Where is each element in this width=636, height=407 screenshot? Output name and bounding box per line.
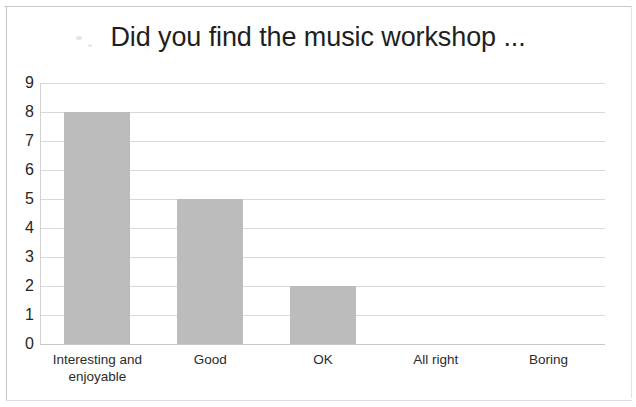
bar xyxy=(290,286,356,344)
y-axis-tick-label: 3 xyxy=(6,249,34,265)
y-axis-tick-label: 7 xyxy=(6,133,34,149)
y-axis-tick-label: 9 xyxy=(6,75,34,91)
x-axis-tick-label: Interesting and enjoyable xyxy=(37,351,157,385)
x-axis-tick-label: Boring xyxy=(489,351,609,368)
x-axis-category-labels: Interesting and enjoyableGoodOKAll right… xyxy=(41,351,605,399)
y-axis-tick-label: 4 xyxy=(6,220,34,236)
y-axis-tick-label: 0 xyxy=(6,336,34,352)
page-frame-top-border xyxy=(4,6,632,7)
y-axis-tick-label: 8 xyxy=(6,104,34,120)
bar xyxy=(64,112,130,344)
y-axis-tick-label: 6 xyxy=(6,162,34,178)
bar-chart-figure: Did you find the music workshop ... 9876… xyxy=(0,0,636,407)
y-axis-tick-label: 2 xyxy=(6,278,34,294)
gridline xyxy=(41,83,605,84)
axis-baseline xyxy=(41,344,605,345)
page-frame-right-border xyxy=(631,6,632,398)
y-axis-tick-label: 5 xyxy=(6,191,34,207)
x-axis-tick-label: OK xyxy=(263,351,383,368)
y-axis-tick-labels: 9876543210 xyxy=(0,0,34,407)
chart-title: Did you find the music workshop ... xyxy=(0,22,636,53)
plot-area xyxy=(41,83,605,344)
y-axis-tick-label: 1 xyxy=(6,307,34,323)
x-axis-tick-label: Good xyxy=(150,351,270,368)
x-axis-tick-label: All right xyxy=(376,351,496,368)
page-frame-bottom-border xyxy=(6,400,632,401)
bar xyxy=(177,199,243,344)
